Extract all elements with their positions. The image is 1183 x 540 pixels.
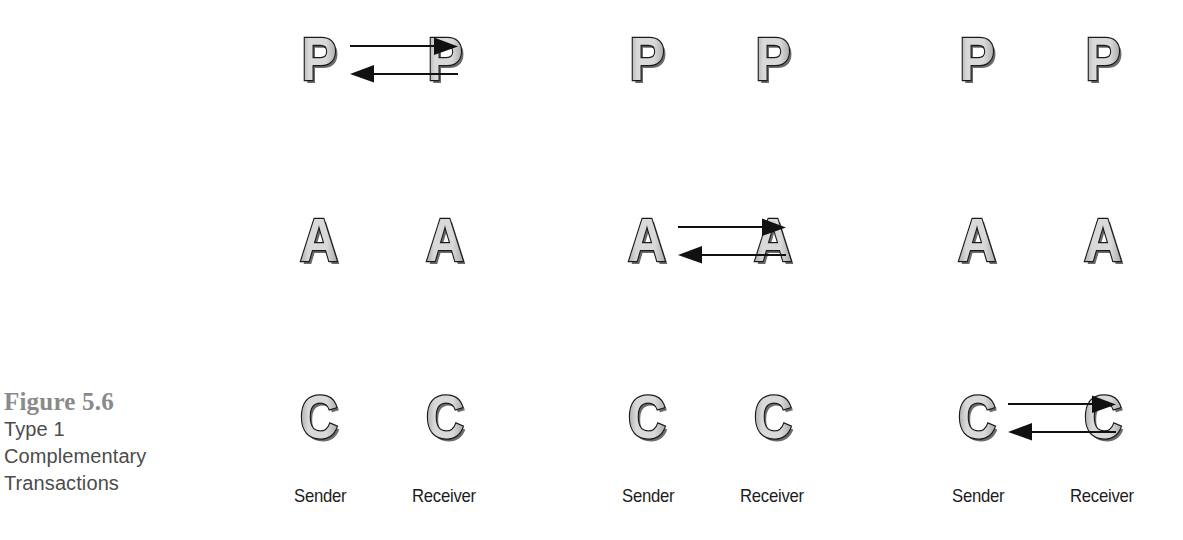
transaction-arrows	[346, 214, 462, 270]
transaction-diagrams: P P P P	[250, 0, 1183, 540]
letter-glyph-P: P P	[946, 21, 1008, 103]
figure-caption-line-3: Transactions	[4, 470, 234, 497]
letter-glyph-C: C C	[946, 379, 1008, 461]
role-labels: Sender Receiver	[930, 484, 1183, 514]
figure-caption-line-2: Complementary	[4, 443, 234, 470]
ego-state-row-child: C C C C	[600, 375, 890, 465]
transaction-arrows	[1004, 214, 1120, 270]
ego-state-row-parent: P P P P	[600, 17, 890, 107]
letter-glyph-A: A A	[288, 202, 350, 284]
svg-text:P: P	[959, 24, 995, 93]
transaction-arrows	[1004, 33, 1120, 89]
svg-text:A: A	[958, 205, 997, 274]
letter-glyph-A: A A	[946, 202, 1008, 284]
transaction-arrows	[346, 33, 462, 89]
letter-glyph-A: A A	[616, 202, 678, 284]
ego-state-row-parent: P P P P	[930, 17, 1183, 107]
receiver-label: Receiver	[412, 484, 476, 508]
ego-state-row-parent: P P P P	[272, 17, 562, 107]
letter-glyph-P: P P	[616, 21, 678, 103]
role-labels: Sender Receiver	[600, 484, 890, 514]
svg-text:C: C	[300, 382, 339, 451]
transaction-arrows	[674, 391, 790, 447]
figure-number: Figure 5.6	[4, 388, 234, 416]
svg-text:P: P	[301, 24, 337, 93]
sender-label: Sender	[294, 484, 346, 508]
transaction-arrows	[674, 33, 790, 89]
ego-state-row-adult: A A A A	[272, 198, 562, 288]
transaction-arrows	[674, 214, 790, 270]
ego-state-row-adult: A A A A	[600, 198, 890, 288]
diagram-child-to-child-transaction: P P P P	[930, 0, 1183, 540]
ego-state-row-child: C C C C	[272, 375, 562, 465]
receiver-label: Receiver	[740, 484, 804, 508]
ego-state-row-child: C C C C	[930, 375, 1183, 465]
letter-glyph-P: P P	[288, 21, 350, 103]
ego-state-row-adult: A A A A	[930, 198, 1183, 288]
letter-glyph-C: C C	[288, 379, 350, 461]
svg-text:A: A	[628, 205, 667, 274]
figure-caption: Figure 5.6 Type 1 Complementary Transact…	[4, 388, 234, 497]
sender-label: Sender	[952, 484, 1004, 508]
sender-label: Sender	[622, 484, 674, 508]
transaction-arrows	[1004, 391, 1120, 447]
figure-caption-line-1: Type 1	[4, 416, 234, 443]
svg-text:C: C	[628, 382, 667, 451]
transaction-arrows	[346, 391, 462, 447]
diagram-parent-to-parent-transaction: P P P P	[272, 0, 562, 540]
role-labels: Sender Receiver	[272, 484, 562, 514]
diagram-adult-to-adult-transaction: P P P P	[600, 0, 890, 540]
svg-text:A: A	[300, 205, 339, 274]
svg-text:C: C	[958, 382, 997, 451]
svg-text:P: P	[629, 24, 665, 93]
letter-glyph-C: C C	[616, 379, 678, 461]
receiver-label: Receiver	[1070, 484, 1134, 508]
